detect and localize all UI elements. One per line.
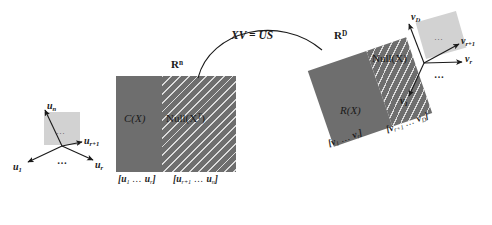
lbl-vD-dots: … — [403, 115, 416, 128]
lbl-u1-close: ] — [152, 174, 155, 184]
right-null-space-label-text: Null(X) — [372, 52, 407, 64]
left-basis-bracket-column: [u1 … ur] — [118, 175, 156, 185]
right-space-block — [308, 37, 432, 147]
left-space-label-base: R — [171, 58, 179, 70]
transform-label: XV = US — [231, 30, 273, 42]
vector-v-D-sub: D — [415, 16, 420, 23]
vector-u-r-sub: r — [101, 164, 104, 171]
left-null-space-region — [162, 76, 236, 172]
vector-u-1-label: u1 — [13, 162, 22, 173]
vector-v-r-sub: r — [469, 58, 472, 65]
vector-u-1-sub: 1 — [19, 166, 22, 173]
vector-u-r1-label: ur+1 — [84, 136, 99, 147]
vector-u-n-label: un — [47, 101, 56, 112]
column-space-region — [116, 76, 162, 172]
vector-u-r-label: ur — [95, 160, 103, 171]
lbl-un-close: ] — [215, 174, 218, 184]
vector-v-1-label: v1 — [400, 96, 408, 107]
vector-v-r-arrow — [424, 62, 462, 63]
vector-v-1-sub: 1 — [404, 100, 407, 107]
vector-v-D-label: vD — [411, 12, 420, 23]
right-face-ellipsis: … — [434, 33, 444, 42]
right-space-label: RD — [334, 30, 347, 41]
left-space-label-exponent: n — [179, 59, 183, 67]
column-space-label: C(X) — [124, 113, 145, 124]
left-space-label: Rn — [171, 59, 183, 70]
hatch-pattern-icon — [162, 76, 236, 172]
right-space-label-exponent: D — [342, 30, 347, 38]
lbl-ur1-sub: r+1 — [181, 178, 191, 185]
lbl-u-dots: … — [132, 174, 142, 184]
vector-v-r1-sub: r+1 — [465, 40, 475, 47]
left-face-ellipsis-text: … — [56, 126, 66, 136]
vector-v-r-label: vr — [465, 54, 472, 65]
row-space-label-text: R(X) — [340, 104, 361, 116]
right-lower-ellipsis-text: … — [434, 69, 445, 80]
vector-u-r1-sub: r+1 — [90, 140, 100, 147]
lbl-un-dots: … — [194, 174, 204, 184]
left-null-space-label-close: ) — [201, 112, 205, 124]
transform-label-text: XV = US — [231, 29, 273, 41]
left-face-ellipsis: … — [56, 127, 66, 136]
lbl-vr1-sub: r+1 — [393, 123, 405, 133]
row-space-label: R(X) — [340, 105, 361, 116]
right-face-ellipsis-text: … — [434, 32, 444, 42]
left-space-block — [116, 76, 236, 172]
svd-subspaces-diagram: Rn C(X) Null(XT) [u1 … ur] [ur+1 … un] R… — [0, 0, 492, 225]
lbl-v-dots: … — [339, 131, 352, 144]
lbl-v1-sub: 1 — [335, 139, 340, 147]
left-null-space-label: Null(XT) — [166, 113, 205, 124]
left-basis-bracket-null: [ur+1 … un] — [173, 175, 218, 185]
left-lower-ellipsis: … — [57, 156, 68, 166]
left-null-space-label-text: Null(X — [166, 112, 197, 124]
left-lower-ellipsis-text: … — [57, 155, 68, 166]
right-null-space-label: Null(X) — [372, 53, 407, 64]
right-lower-ellipsis: … — [434, 70, 445, 80]
lbl-u1-sub: 1 — [126, 178, 129, 185]
vector-u-n-sub: n — [53, 105, 57, 112]
right-space-label-base: R — [334, 29, 342, 41]
vector-v-r1-label: vr+1 — [461, 36, 475, 47]
column-space-label-text: C(X) — [124, 112, 145, 124]
